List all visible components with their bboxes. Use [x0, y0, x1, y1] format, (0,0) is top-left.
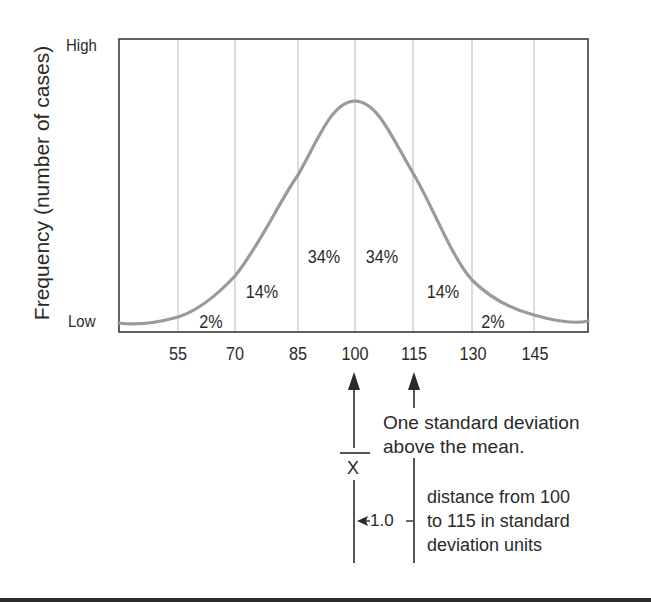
sd-note: One standard deviation above the mean.	[383, 411, 579, 459]
distance-value: 1.0	[370, 512, 394, 529]
x-tick-115: 115	[401, 345, 427, 363]
region-label-100-115: 34%	[366, 248, 398, 266]
normal-distribution-diagram: Frequency (number of cases) High Low	[0, 0, 651, 602]
sd-note-line-2: above the mean.	[383, 435, 579, 459]
distance-note-line-1: distance from 100	[427, 485, 570, 509]
distance-note-line-3: deviation units	[427, 533, 570, 557]
region-label-130-145: 2%	[481, 313, 504, 331]
x-tick-100: 100	[341, 345, 368, 363]
sd-note-line-1: One standard deviation	[383, 411, 579, 435]
x-tick-145: 145	[521, 345, 548, 363]
mean-symbol-x: X	[347, 459, 359, 477]
distance-note: distance from 100 to 115 in standard dev…	[427, 485, 570, 557]
plot-frame	[119, 39, 588, 332]
distance-note-line-2: to 115 in standard	[427, 509, 570, 533]
region-label-115-130: 14%	[427, 283, 459, 301]
x-tick-130: 130	[459, 345, 486, 363]
x-tick-70: 70	[226, 345, 244, 363]
x-tick-85: 85	[289, 345, 307, 363]
sd-arrow-head-icon	[408, 372, 420, 390]
region-label-55-70: 2%	[199, 313, 222, 331]
region-label-85-100: 34%	[308, 248, 340, 266]
bell-curve	[119, 101, 588, 324]
x-tick-55: 55	[169, 345, 187, 363]
bottom-rule	[0, 598, 651, 602]
mean-arrow-head-icon	[348, 372, 360, 390]
region-label-70-85: 14%	[246, 283, 278, 301]
